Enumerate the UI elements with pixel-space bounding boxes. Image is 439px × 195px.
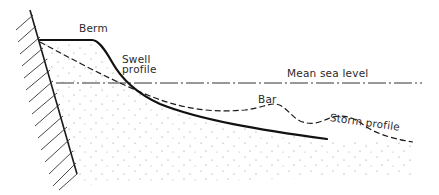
beach-profile-diagram (0, 0, 439, 195)
storm-profile-label: Storm profile (330, 112, 401, 123)
swell-profile-label: Swell profile (122, 54, 157, 74)
mean-sea-level-label: Mean sea level (287, 68, 368, 79)
berm-label: Berm (79, 23, 108, 34)
swell-profile-label-line2: profile (122, 64, 157, 74)
bar-label: Bar (258, 94, 277, 105)
